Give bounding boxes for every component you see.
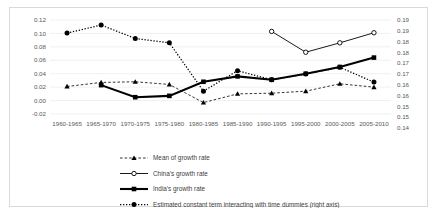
series-line	[67, 25, 374, 91]
legend-item-2[interactable]: China's growth rate	[120, 170, 208, 178]
right-axis-tick: 0.15	[397, 113, 410, 120]
x-axis-tick: 1995-2000	[291, 120, 321, 127]
left-axis-tick: -0.02	[32, 110, 47, 117]
right-axis-tick: 0.15	[397, 103, 410, 110]
data-point-circle	[372, 31, 376, 35]
right-axis-tick: 0.17	[397, 70, 410, 77]
data-point-square	[201, 79, 206, 84]
data-point-square	[372, 55, 377, 60]
legend-item-4[interactable]: Estimated constant term interacting with…	[120, 201, 339, 208]
data-point-circle	[167, 40, 172, 45]
data-point-triangle	[303, 89, 308, 94]
data-point-circle	[133, 36, 138, 41]
legend-label: India's growth rate	[153, 185, 205, 193]
right-axis-tick: 0.18	[397, 49, 410, 56]
data-point-circle	[235, 68, 240, 73]
data-point-circle	[269, 77, 274, 82]
plot-area: 0.120.100.080.060.040.020.00-0.02 0.190.…	[10, 8, 427, 206]
right-axis-tick: 0.18	[397, 38, 410, 45]
data-point-circle	[337, 65, 342, 70]
x-axis-tick: 1965-1970	[86, 120, 116, 127]
data-point-square	[99, 83, 104, 88]
right-axis-tick: 0.19	[397, 16, 410, 23]
data-point-circle	[371, 80, 376, 85]
legend-item-1[interactable]: Mean of growth rate	[120, 154, 210, 162]
data-point-circle	[269, 29, 273, 33]
data-point-triangle	[235, 91, 240, 96]
left-axis-tick: 0.00	[34, 97, 47, 104]
right-axis-tick: 0.19	[397, 27, 410, 34]
data-point-circle	[303, 72, 308, 77]
right-axis-tick: 0.17	[397, 59, 410, 66]
left-axis-tick: 0.12	[34, 16, 47, 23]
data-point-triangle	[167, 82, 172, 87]
data-point-circle	[132, 202, 137, 207]
data-point-square	[167, 94, 172, 99]
x-axis-tick: 1985-1990	[223, 120, 253, 127]
data-point-circle	[99, 23, 104, 28]
left-axis-tick: 0.06	[34, 56, 47, 63]
chart-legend: Mean of growth rateChina's growth rateIn…	[120, 154, 339, 208]
series-line	[272, 31, 374, 52]
data-point-circle	[132, 171, 136, 175]
data-point-square	[132, 187, 137, 192]
legend-label: Mean of growth rate	[153, 154, 210, 162]
x-axis-tick: 1980-1985	[189, 120, 219, 127]
right-axis-tick: 0.14	[397, 124, 410, 131]
x-axis-tick: 1970-1975	[120, 120, 150, 127]
data-point-circle	[65, 31, 70, 36]
legend-label: China's growth rate	[153, 170, 208, 178]
data-series-layer	[64, 23, 376, 105]
chart-container: 0.120.100.080.060.040.020.00-0.02 0.190.…	[9, 7, 428, 207]
x-axis-tick: 1960-1965	[52, 120, 82, 127]
right-axis-tick: 0.16	[397, 92, 410, 99]
left-axis-tick: 0.04	[34, 70, 47, 77]
data-point-circle	[338, 41, 342, 45]
data-point-square	[133, 95, 138, 100]
x-axis-tick: 2005-2010	[359, 120, 389, 127]
x-axis-tick: 2000-2005	[325, 120, 355, 127]
data-point-circle	[201, 89, 206, 94]
series-2	[269, 29, 376, 54]
left-axis-tick: 0.10	[34, 30, 47, 37]
right-axis-tick-labels: 0.190.190.180.180.170.170.160.160.150.15…	[397, 16, 410, 131]
legend-item-3[interactable]: India's growth rate	[120, 185, 205, 193]
right-axis-tick: 0.16	[397, 81, 410, 88]
left-axis-tick: 0.02	[34, 83, 47, 90]
left-axis-tick: 0.08	[34, 43, 47, 50]
x-axis-tick: 1990-1995	[257, 120, 287, 127]
series-line	[67, 82, 374, 103]
data-point-square	[235, 74, 240, 79]
data-point-triangle	[337, 81, 342, 86]
x-axis-tick-labels: 1960-19651965-19701970-19751975-19801980…	[52, 120, 389, 127]
data-point-circle	[304, 50, 308, 54]
legend-label: Estimated constant term interacting with…	[153, 201, 339, 208]
chart-svg: 0.120.100.080.060.040.020.00-0.02 0.190.…	[10, 8, 429, 208]
x-axis-tick: 1975-1980	[155, 120, 185, 127]
left-axis-tick-labels: 0.120.100.080.060.040.020.00-0.02	[32, 16, 47, 117]
